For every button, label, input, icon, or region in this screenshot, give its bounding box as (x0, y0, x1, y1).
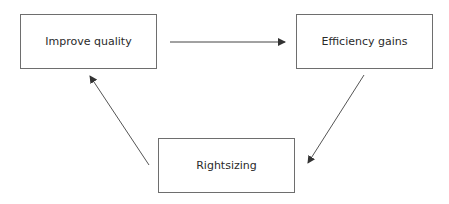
node-label: Efficiency gains (322, 35, 408, 48)
node-label: Rightsizing (196, 159, 257, 172)
node-label: Improve quality (45, 35, 131, 48)
node-rightsizing: Rightsizing (158, 138, 295, 193)
node-efficiency-gains: Efficiency gains (296, 14, 433, 69)
arrow-efficiency-to-rightsizing (308, 75, 364, 163)
node-improve-quality: Improve quality (20, 14, 157, 69)
arrow-rightsizing-to-improve (90, 76, 149, 165)
